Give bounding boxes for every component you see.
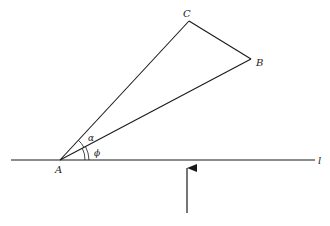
angle-arc-phi-outer xyxy=(86,147,90,160)
line-label-l: l xyxy=(318,155,321,166)
segment-ab xyxy=(60,59,251,160)
angle-arc-alpha xyxy=(78,140,84,147)
segment-cb xyxy=(189,21,251,59)
angle-arc-phi-inner xyxy=(82,148,85,160)
angle-label-phi: ϕ xyxy=(94,148,100,158)
point-label-b: B xyxy=(255,57,263,68)
point-label-a: A xyxy=(54,164,62,175)
geometry-diagram: C B A l α ϕ xyxy=(0,0,330,226)
segment-ac xyxy=(60,21,189,160)
point-label-c: C xyxy=(183,8,191,19)
angle-label-alpha: α xyxy=(88,133,94,143)
